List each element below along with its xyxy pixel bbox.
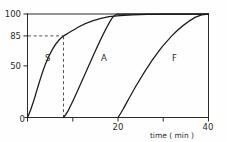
y-tick-label-0: 0 — [20, 114, 25, 124]
y-tick-label-100: 100 — [5, 9, 21, 19]
curve-label-a: A — [101, 53, 107, 63]
y-tick-label-50: 50 — [10, 61, 21, 71]
dissolution-profile-chart: 100 85 50 0 20 40 S A F time ( min ) — [0, 0, 227, 142]
chart-axes — [28, 14, 209, 118]
x-axis-title: time ( min ) — [150, 131, 194, 140]
y-axis-ticks — [24, 14, 28, 118]
x-tick-label-20: 20 — [113, 122, 124, 132]
y-tick-label-85: 85 — [10, 31, 21, 41]
data-curves — [28, 14, 209, 118]
curve-label-s: S — [45, 53, 50, 63]
curve-label-f: F — [172, 53, 177, 63]
y-axis-tick-labels: 100 85 50 0 — [5, 9, 25, 124]
curve-s — [28, 14, 209, 118]
curve-a — [64, 14, 209, 118]
x-tick-label-40: 40 — [203, 122, 214, 132]
curve-labels: S A F — [45, 53, 177, 63]
curve-f — [118, 14, 209, 118]
guide-lines — [28, 36, 64, 117]
chart-canvas: 100 85 50 0 20 40 S A F time ( min ) — [0, 0, 227, 142]
